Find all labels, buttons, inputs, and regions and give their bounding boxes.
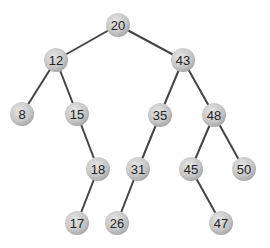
node-label: 48 xyxy=(207,108,221,123)
tree-node-26: 26 xyxy=(105,211,129,235)
node-label: 15 xyxy=(70,107,84,122)
tree-node-31: 31 xyxy=(126,157,150,181)
node-label: 47 xyxy=(214,216,228,231)
tree-node-48: 48 xyxy=(202,103,226,127)
node-label: 35 xyxy=(153,108,167,123)
tree-node-12: 12 xyxy=(44,48,68,72)
node-label: 43 xyxy=(176,53,190,68)
tree-node-45: 45 xyxy=(179,157,203,181)
tree-node-50: 50 xyxy=(232,157,256,181)
tree-node-15: 15 xyxy=(65,102,89,126)
node-label: 26 xyxy=(110,216,124,231)
tree-diagram: 201243815354818314550172647 xyxy=(0,0,270,248)
node-label: 31 xyxy=(131,162,145,177)
tree-node-17: 17 xyxy=(65,211,89,235)
node-label: 50 xyxy=(237,162,251,177)
node-label: 12 xyxy=(49,53,63,68)
tree-node-8: 8 xyxy=(10,102,34,126)
tree-node-35: 35 xyxy=(148,103,172,127)
tree-node-47: 47 xyxy=(209,211,233,235)
tree-svg: 201243815354818314550172647 xyxy=(0,0,270,248)
node-label: 8 xyxy=(18,107,25,122)
nodes-layer: 201243815354818314550172647 xyxy=(10,13,256,235)
tree-node-20: 20 xyxy=(106,13,130,37)
node-label: 18 xyxy=(91,162,105,177)
node-label: 20 xyxy=(111,18,125,33)
node-label: 45 xyxy=(184,162,198,177)
tree-node-43: 43 xyxy=(171,48,195,72)
tree-node-18: 18 xyxy=(86,157,110,181)
node-label: 17 xyxy=(70,216,84,231)
